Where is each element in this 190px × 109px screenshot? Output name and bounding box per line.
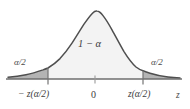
- xtick-label-zero: 0: [91, 90, 96, 100]
- right-tail-alpha-label: α/2: [151, 58, 163, 67]
- central-confidence-label: 1 − α: [78, 39, 101, 50]
- z-axis-label: z: [176, 91, 180, 101]
- normal-distribution-figure: α/2 α/2 1 − α − z(α/2) 0 z(α/2) z: [0, 0, 190, 109]
- left-tail-alpha-label: α/2: [14, 58, 26, 67]
- xtick-label-positive-critical: z(α/2): [128, 90, 150, 100]
- xtick-label-negative-critical: − z(α/2): [18, 90, 49, 100]
